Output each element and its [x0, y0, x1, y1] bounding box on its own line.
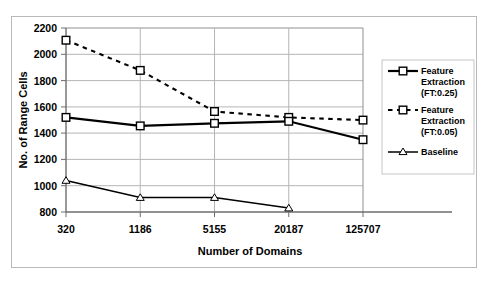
y-tick-label: 1800	[34, 75, 58, 87]
y-tick-label: 1600	[34, 101, 58, 113]
x-tick-label: 5155	[203, 223, 227, 235]
legend-marker-square	[399, 106, 407, 114]
data-point-marker	[136, 122, 144, 130]
legend-label-line1: Feature	[421, 105, 454, 115]
data-point-marker	[359, 136, 367, 144]
y-tick-label: 800	[39, 206, 57, 218]
legend-marker-square	[399, 67, 407, 75]
data-point-marker	[211, 120, 219, 128]
y-tick-label: 2000	[34, 48, 58, 60]
x-tick-label: 320	[57, 223, 75, 235]
x-tick-label: 1186	[129, 223, 152, 235]
y-tick-labels: 2200 2000 1800 1600 1400 1200 1000 800	[34, 22, 58, 218]
chart-figure: 2200 2000 1800 1600 1400 1200 1000 800 3…	[0, 0, 490, 284]
y-tick-label: 2200	[34, 22, 58, 34]
y-tick-label: 1400	[34, 127, 58, 139]
y-tick-label: 1200	[34, 153, 58, 165]
data-point-marker	[285, 118, 293, 126]
chart-legend: Feature Extraction (FT:0.25) Feature Ext…	[382, 60, 474, 174]
legend-label-line2: Extraction	[421, 77, 465, 87]
data-point-marker	[62, 36, 70, 44]
line-chart: 2200 2000 1800 1600 1400 1200 1000 800 3…	[0, 0, 490, 284]
x-axis-ticks	[66, 212, 363, 217]
legend-label-line3: (FT:0.05)	[421, 127, 458, 137]
x-tick-label: 20187	[274, 223, 303, 235]
y-axis-title: No. of Range Cells	[17, 71, 29, 168]
y-tick-label: 1000	[34, 180, 58, 192]
legend-label-line2: Extraction	[421, 116, 465, 126]
x-axis-title: Number of Domains	[198, 245, 303, 257]
data-point-marker	[62, 114, 70, 122]
x-tick-labels: 320 1186 5155 20187 125707	[57, 223, 380, 235]
x-tick-label: 125707	[345, 223, 380, 235]
legend-label-line1: Feature	[421, 66, 454, 76]
legend-label-line3: (FT:0.25)	[421, 88, 458, 98]
data-point-marker	[136, 67, 144, 75]
legend-label-line1: Baseline	[421, 147, 458, 157]
data-point-marker	[359, 116, 367, 124]
data-point-marker	[211, 108, 219, 116]
